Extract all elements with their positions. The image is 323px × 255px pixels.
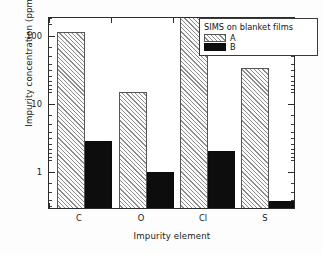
chart-figure: Impurity concentration (ppm w) Impurity … [0, 0, 323, 255]
legend-item-a: A [204, 34, 313, 42]
y-axis-title: Impurity concentration (ppm w) [24, 0, 34, 151]
legend-title: SIMS on blanket films [204, 22, 313, 32]
chart-legend: SIMS on blanket films A B [199, 18, 318, 56]
bar-a-o [119, 92, 147, 209]
legend-item-b: B [204, 43, 313, 51]
x-tick-label: S [262, 213, 267, 223]
y-tick-label: 100 [18, 31, 42, 41]
x-axis-title: Impurity element [48, 231, 296, 241]
bar-a-s [241, 68, 269, 209]
bar-b-o [147, 172, 174, 209]
y-tick-label: 1 [18, 167, 42, 177]
y-tick-label: 10 [18, 99, 42, 109]
legend-label-a: A [230, 34, 236, 42]
x-tick-label: Cl [199, 213, 207, 223]
x-tick-label: C [76, 213, 82, 223]
bar-b-cl [208, 151, 235, 209]
x-tick-label: O [138, 213, 145, 223]
bar-b-c [85, 141, 112, 209]
legend-label-b: B [230, 43, 236, 51]
bar-a-c [57, 32, 85, 209]
bar-b-s [269, 201, 295, 209]
hatched-swatch-icon [204, 34, 226, 42]
solid-black-swatch-icon [204, 43, 226, 51]
